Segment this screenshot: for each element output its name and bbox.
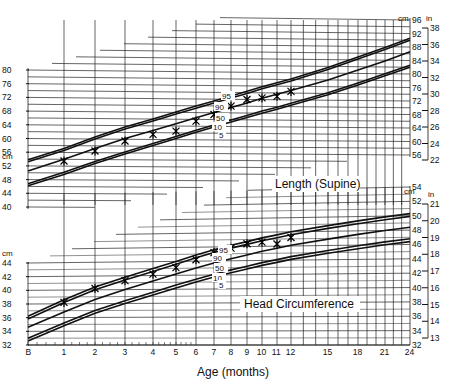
svg-text:76: 76 — [2, 79, 12, 89]
length-unit-left: cm — [2, 152, 13, 161]
svg-text:40: 40 — [2, 202, 12, 212]
svg-text:90: 90 — [215, 103, 224, 112]
svg-text:44: 44 — [2, 258, 12, 268]
svg-text:B: B — [25, 347, 31, 357]
svg-text:48: 48 — [2, 175, 12, 185]
svg-text:22: 22 — [430, 155, 440, 165]
svg-text:9: 9 — [244, 347, 249, 357]
svg-text:72: 72 — [412, 96, 422, 106]
head-unit-right-in: in — [428, 190, 434, 199]
svg-text:44: 44 — [2, 188, 12, 198]
svg-text:5: 5 — [219, 281, 224, 290]
svg-text:40: 40 — [412, 283, 422, 293]
svg-text:96: 96 — [412, 15, 422, 25]
svg-text:15: 15 — [430, 300, 440, 310]
svg-text:38: 38 — [430, 23, 440, 33]
svg-text:30: 30 — [430, 89, 440, 99]
svg-text:4: 4 — [150, 347, 155, 357]
svg-text:52: 52 — [412, 196, 422, 206]
svg-text:60: 60 — [2, 134, 12, 144]
svg-text:2: 2 — [92, 347, 97, 357]
svg-text:64: 64 — [412, 123, 422, 133]
svg-text:36: 36 — [430, 40, 440, 50]
svg-text:18: 18 — [430, 249, 440, 259]
svg-text:26: 26 — [430, 122, 440, 132]
svg-text:80: 80 — [2, 65, 12, 75]
svg-text:38: 38 — [412, 297, 422, 307]
svg-text:34: 34 — [412, 326, 422, 336]
growth-chart: 9590501059590501054044485256606468727680… — [0, 0, 454, 383]
svg-text:3: 3 — [122, 347, 127, 357]
svg-text:10: 10 — [257, 347, 267, 357]
svg-text:6: 6 — [193, 347, 198, 357]
svg-text:13: 13 — [430, 333, 440, 343]
svg-text:14: 14 — [430, 316, 440, 326]
svg-text:36: 36 — [412, 311, 422, 321]
head-title: Head Circumference — [244, 297, 354, 311]
growth-chart-svg: 9590501059590501054044485256606468727680… — [0, 0, 454, 383]
svg-text:1: 1 — [61, 347, 66, 357]
length-unit-right-cm: cm — [398, 14, 409, 23]
svg-text:46: 46 — [412, 239, 422, 249]
svg-text:16: 16 — [430, 283, 440, 293]
svg-text:72: 72 — [2, 92, 12, 102]
svg-text:44: 44 — [412, 254, 422, 264]
svg-text:50: 50 — [215, 264, 224, 273]
svg-text:36: 36 — [2, 313, 12, 323]
svg-text:20: 20 — [430, 216, 440, 226]
svg-text:8: 8 — [228, 347, 233, 357]
svg-text:5: 5 — [173, 347, 178, 357]
svg-text:38: 38 — [2, 299, 12, 309]
x-axis-label: Age (months) — [197, 365, 269, 379]
svg-text:95: 95 — [222, 92, 231, 101]
svg-text:11: 11 — [272, 347, 281, 357]
svg-text:17: 17 — [430, 266, 440, 276]
length-unit-right-in: in — [426, 14, 432, 23]
svg-text:19: 19 — [430, 233, 440, 243]
svg-text:5: 5 — [219, 131, 224, 140]
svg-text:21: 21 — [430, 199, 440, 209]
svg-text:90: 90 — [213, 254, 222, 263]
svg-text:76: 76 — [412, 83, 422, 93]
svg-text:42: 42 — [2, 272, 12, 282]
svg-text:56: 56 — [412, 150, 422, 160]
svg-text:68: 68 — [412, 110, 422, 120]
svg-text:42: 42 — [412, 268, 422, 278]
svg-text:32: 32 — [2, 340, 12, 350]
length-title: Length (Supine) — [275, 177, 360, 191]
svg-text:24: 24 — [430, 139, 440, 149]
svg-text:40: 40 — [2, 285, 12, 295]
svg-text:34: 34 — [2, 326, 12, 336]
svg-text:7: 7 — [211, 347, 216, 357]
svg-text:18: 18 — [353, 347, 363, 357]
svg-text:50: 50 — [216, 114, 225, 123]
svg-text:84: 84 — [412, 56, 422, 66]
head-unit-left: cm — [2, 249, 13, 258]
svg-text:28: 28 — [430, 106, 440, 116]
svg-text:34: 34 — [430, 56, 440, 66]
svg-text:88: 88 — [412, 42, 422, 52]
svg-text:52: 52 — [2, 161, 12, 171]
svg-text:50: 50 — [412, 211, 422, 221]
svg-text:68: 68 — [2, 106, 12, 116]
svg-text:32: 32 — [430, 73, 440, 83]
svg-text:48: 48 — [412, 225, 422, 235]
svg-text:92: 92 — [412, 29, 422, 39]
svg-text:80: 80 — [412, 69, 422, 79]
svg-text:60: 60 — [412, 137, 422, 147]
svg-text:15: 15 — [323, 347, 333, 357]
svg-text:21: 21 — [380, 347, 390, 357]
svg-text:24: 24 — [405, 347, 415, 357]
head-unit-right-cm: cm — [404, 187, 415, 196]
svg-text:12: 12 — [286, 347, 296, 357]
svg-text:64: 64 — [2, 120, 12, 130]
